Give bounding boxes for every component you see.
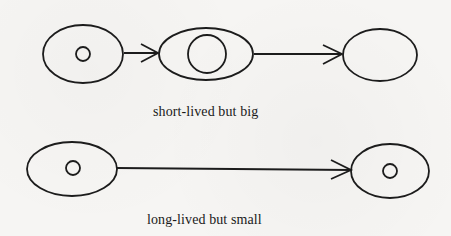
small-object-circle-l2 — [383, 164, 397, 178]
node-ellipse-s1 — [43, 25, 123, 83]
row-short-lived — [43, 25, 417, 83]
caption-long-lived: long-lived but small — [147, 212, 262, 228]
big-object-circle-s2 — [188, 35, 226, 73]
small-object-circle-s1 — [76, 47, 90, 61]
edge-l1-l2 — [117, 168, 351, 170]
diagram-canvas: short-lived but big long-lived but small — [0, 0, 451, 236]
row-long-lived — [27, 142, 429, 198]
node-ellipse-l2 — [351, 144, 429, 198]
small-object-circle-l1 — [66, 161, 80, 175]
caption-short-lived: short-lived but big — [153, 104, 258, 120]
node-ellipse-l1 — [27, 142, 117, 196]
node-ellipse-s3 — [343, 29, 417, 81]
